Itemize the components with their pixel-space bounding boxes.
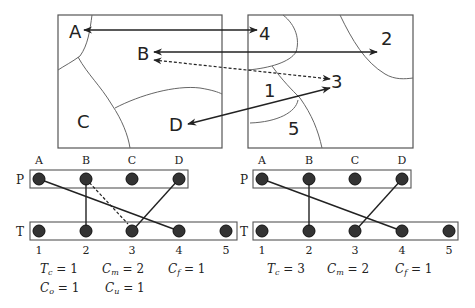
metric-co: Co = 1	[40, 281, 79, 296]
p-node-label: C	[351, 154, 359, 167]
t-node-label: 5	[223, 244, 230, 257]
t-node-label: 1	[36, 244, 43, 257]
region-label-1: 1	[264, 80, 275, 101]
t-node-3	[349, 225, 361, 237]
p-node-label: D	[175, 154, 184, 167]
region-label-b: B	[137, 43, 149, 64]
p-node-b	[303, 173, 315, 185]
p-node-label: A	[257, 154, 267, 167]
metric-cf: Cf = 1	[395, 262, 432, 277]
row-label-p: P	[16, 173, 24, 187]
p-node-a	[33, 173, 45, 185]
t-node-label: 4	[399, 244, 406, 257]
region-label-2: 2	[381, 28, 392, 49]
t-node-2	[80, 225, 92, 237]
p-node-label: A	[34, 154, 44, 167]
region-label-c: C	[77, 111, 90, 132]
p-node-label: D	[398, 154, 407, 167]
p-node-d	[396, 173, 408, 185]
right-graph: A B C D P T 1 2 3 4 5 Tc = 3 Cm = 2 Cf =…	[240, 154, 458, 277]
left-graph: A B C D P T 1 2 3 4 5 Tc = 1 Cm = 2 Cf =…	[16, 154, 237, 296]
region-label-4: 4	[259, 23, 270, 44]
t-node-label: 1	[259, 244, 266, 257]
region-label-a: A	[69, 21, 82, 42]
metric-cf: Cf = 1	[168, 262, 205, 277]
row-label-t: T	[16, 225, 24, 239]
row-label-t: T	[240, 225, 248, 239]
edge-a-4	[262, 179, 402, 231]
region-boundary	[78, 57, 130, 148]
p-node-c	[349, 173, 361, 185]
diagram-canvas: A B C D 4 2 3 1 5 A B C D P T	[0, 0, 475, 308]
t-node-4	[396, 225, 408, 237]
t-node-label: 3	[352, 244, 359, 257]
edge-d-3	[132, 179, 179, 231]
p-node-d	[173, 173, 185, 185]
t-node-5	[443, 225, 455, 237]
row-label-p: P	[240, 173, 248, 187]
left-map: A B C D	[58, 15, 222, 148]
t-node-5	[220, 225, 232, 237]
p-node-label: B	[82, 154, 90, 167]
t-node-4	[173, 225, 185, 237]
edge-a-4	[39, 179, 179, 231]
p-node-label: C	[128, 154, 136, 167]
region-label-d: D	[169, 114, 183, 135]
t-node-2	[303, 225, 315, 237]
region-boundary	[340, 15, 413, 79]
t-node-label: 2	[83, 244, 90, 257]
t-node-label: 4	[176, 244, 183, 257]
p-node-label: B	[305, 154, 313, 167]
p-row-box	[253, 170, 411, 188]
edge-b-3-dashed	[86, 179, 128, 224]
region-label-5: 5	[288, 118, 299, 139]
metric-cm: Cm = 2	[327, 262, 369, 277]
p-node-b	[80, 173, 92, 185]
metric-tc: Tc = 3	[267, 262, 305, 277]
t-node-label: 5	[446, 244, 453, 257]
metric-cm: Cm = 2	[102, 262, 144, 277]
metric-tc: Tc = 1	[40, 262, 78, 277]
t-node-1	[256, 225, 268, 237]
region-boundary	[115, 87, 222, 108]
region-label-3: 3	[331, 71, 342, 92]
t-node-1	[33, 225, 45, 237]
right-map: 4 2 3 1 5	[248, 15, 413, 148]
p-row-box	[30, 170, 188, 188]
arrow-b-3-dashed	[154, 60, 330, 79]
metric-cu: Cu = 1	[105, 281, 145, 296]
t-node-label: 3	[129, 244, 136, 257]
region-boundary	[248, 15, 297, 70]
t-node-label: 2	[306, 244, 313, 257]
p-node-c	[126, 173, 138, 185]
t-node-3	[126, 225, 138, 237]
p-node-a	[256, 173, 268, 185]
edge-d-3	[355, 179, 402, 231]
arrow-d-3	[188, 88, 330, 124]
